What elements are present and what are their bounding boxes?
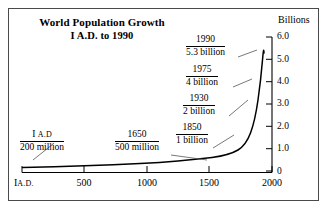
leader-line-1990 xyxy=(238,50,257,57)
annotation-1930: 1930 2 billion xyxy=(183,93,215,117)
y-tick-label-1: 1.0 xyxy=(277,143,307,153)
chart-subtitle: I A.D. to 1990 xyxy=(22,29,182,42)
annotation-1930-population: 2 billion xyxy=(183,106,215,118)
x-tick-label-500: 500 xyxy=(56,177,112,188)
annotation-1650-population: 500 million xyxy=(115,142,159,154)
annotation-1975: 1975 4 billion xyxy=(186,64,218,88)
x-tick-label-1ad-suffix: A.D. xyxy=(17,179,33,188)
x-tick-label-1000: 1000 xyxy=(119,177,175,188)
annotation-1990-year: 1990 xyxy=(186,34,225,47)
annotation-1ad: I A.D 200 million xyxy=(20,129,64,153)
annotation-1850-year: 1850 xyxy=(176,122,208,135)
annotation-1930-year: 1930 xyxy=(183,93,215,106)
annotation-1990-population: 5.3 billion xyxy=(186,47,225,59)
annotation-1650-year: 1650 xyxy=(115,129,159,142)
x-tick-label-2000: 2000 xyxy=(244,177,300,188)
y-axis-unit-label: Billions xyxy=(278,14,310,25)
x-tick-label-1500: 1500 xyxy=(181,177,237,188)
chart-title: World Population Growth xyxy=(22,16,182,29)
annotation-1975-population: 4 billion xyxy=(186,77,218,89)
annotation-1990: 1990 5.3 billion xyxy=(186,34,225,58)
leader-line-1850 xyxy=(213,135,234,148)
annotation-1650: 1650 500 million xyxy=(115,129,159,153)
leader-line-1975 xyxy=(233,79,252,87)
y-tick-label-2: 2.0 xyxy=(277,121,307,131)
leader-line-1650 xyxy=(171,155,207,160)
annotation-1ad-year: I A.D xyxy=(20,129,64,142)
annotation-1850-population: 1 billion xyxy=(176,135,208,147)
annotation-1975-year: 1975 xyxy=(186,64,218,77)
y-tick-label-4: 4.0 xyxy=(277,76,307,86)
y-tick-label-6: 6.0 xyxy=(277,31,307,41)
y-tick-label-0: 0 xyxy=(277,166,307,176)
annotation-1850: 1850 1 billion xyxy=(176,122,208,146)
annotation-1ad-population: 200 million xyxy=(20,142,64,154)
y-tick-label-5: 5.0 xyxy=(277,54,307,64)
y-tick-label-3: 3.0 xyxy=(277,98,307,108)
chart-title-block: World Population Growth I A.D. to 1990 xyxy=(22,16,182,42)
leader-line-1930 xyxy=(229,100,248,116)
chart-figure: World Population Growth I A.D. to 1990 B… xyxy=(0,0,328,210)
